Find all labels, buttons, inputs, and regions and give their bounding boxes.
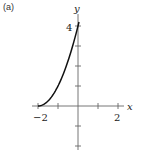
x-tick-label-2: 2 [114, 112, 120, 123]
data-curve [38, 22, 79, 106]
chart: −2 2 4 x y [0, 0, 141, 153]
x-axis-label: x [127, 101, 133, 112]
y-tick-label-4: 4 [66, 22, 72, 33]
y-axis-label: y [73, 3, 80, 14]
x-tick-label-neg2: −2 [33, 112, 48, 123]
